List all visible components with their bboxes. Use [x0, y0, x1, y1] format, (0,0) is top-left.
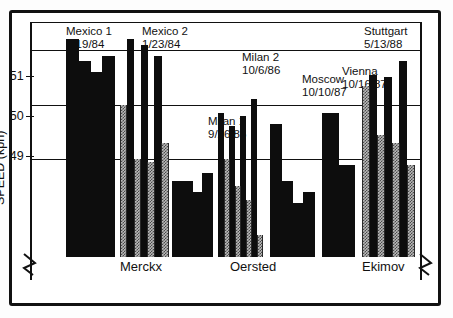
rider-label-oersted: Oersted [230, 259, 276, 274]
bar [161, 143, 168, 257]
plot-area [32, 23, 420, 257]
bar [78, 61, 91, 257]
y-tick-label-51: 51 [2, 69, 24, 83]
annotation-venue: Mexico 2 [142, 25, 188, 37]
bar [235, 186, 241, 257]
bar [257, 235, 263, 257]
annotation-venue: Mexico 1 [66, 25, 112, 37]
bar [192, 192, 203, 257]
bar [251, 99, 257, 257]
annotation-date: 10/6/86 [242, 64, 280, 77]
bar [147, 162, 154, 257]
bar [362, 86, 370, 257]
bar [66, 39, 79, 257]
bar [270, 124, 282, 257]
bar [134, 159, 141, 257]
annotation-moscow: Moscow10/10/87 [302, 73, 347, 98]
bar [90, 72, 103, 257]
bar [120, 105, 127, 257]
bar [377, 135, 385, 257]
annotation-stuttgart: Stuttgart5/13/88 [364, 25, 407, 50]
bar [303, 192, 315, 257]
bar [182, 181, 193, 257]
gridline-51 [32, 50, 420, 51]
bar [392, 143, 400, 257]
rider-label-ekimov: Ekimov [362, 259, 405, 274]
annotation-milan-2: Milan 210/6/86 [242, 51, 280, 76]
bar [172, 181, 183, 257]
y-tick-label-50: 50 [2, 109, 24, 123]
y-axis-title: SPEED (kph) [0, 131, 7, 205]
bar [224, 159, 230, 257]
annotation-date: 10/10/87 [302, 86, 347, 99]
axis-break-right [418, 252, 432, 274]
annotation-venue: Milan 2 [242, 51, 279, 63]
annotation-venue: Stuttgart [364, 25, 407, 37]
bar [407, 165, 415, 258]
bar [338, 165, 355, 258]
bar [202, 173, 213, 257]
bar [281, 181, 293, 257]
rider-label-merckx: Merckx [120, 259, 162, 274]
bar [246, 200, 252, 257]
annotation-venue: Moscow [302, 73, 344, 85]
bar [322, 113, 339, 257]
annotation-mexico-2: Mexico 21/23/84 [142, 25, 188, 50]
annotation-date: 1/23/84 [142, 38, 188, 51]
bar [292, 203, 304, 257]
bar [102, 56, 115, 257]
annotation-date: 5/13/88 [364, 38, 407, 51]
chart-screenshot: 51 50 49 SPEED (kph) Mexico 11/19/84Mexi… [0, 0, 453, 318]
